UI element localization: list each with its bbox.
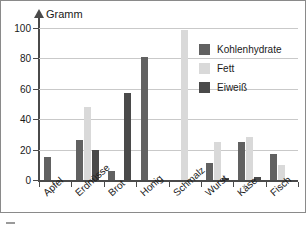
footer-mark [6, 222, 15, 224]
y-tick-label-80: 80 [0, 53, 31, 64]
y-tick-mark-0 [33, 180, 39, 181]
x-tick-mark [233, 182, 234, 187]
chart-page: Gramm 020406080100 ApfelErdnüsseBrotHoni… [0, 0, 307, 234]
x-tick-mark [169, 182, 170, 187]
x-tick-mark [39, 182, 40, 187]
legend-swatch-icon [199, 44, 210, 55]
y-tick-label-40: 40 [0, 114, 31, 125]
y-axis-arrow-icon [34, 9, 44, 18]
x-tick-mark [136, 182, 137, 187]
x-tick-mark [104, 182, 105, 187]
legend-item: Eiweiß [199, 79, 282, 95]
x-tick-mark [201, 182, 202, 187]
y-tick-label-100: 100 [0, 23, 31, 34]
y-tick-label-60: 60 [0, 83, 31, 94]
bar [181, 30, 188, 180]
x-tick-mark [71, 182, 72, 187]
x-tick-mark [266, 182, 267, 187]
bar [84, 107, 91, 180]
x-tick-mark [298, 182, 299, 187]
y-tick-label-0: 0 [0, 175, 31, 186]
legend-swatch-icon [199, 63, 210, 74]
legend-swatch-icon [199, 82, 210, 93]
bar [141, 57, 148, 180]
legend-label: Eiweiß [217, 82, 247, 93]
legend-item: Kohlenhydrate [199, 41, 282, 57]
bar [44, 157, 51, 180]
bar [108, 171, 115, 180]
y-tick-label-20: 20 [0, 144, 31, 155]
bar [270, 154, 277, 180]
bar [76, 140, 83, 180]
y-axis-title: Gramm [46, 8, 83, 20]
legend-label: Kohlenhydrate [217, 44, 282, 55]
bar [124, 93, 131, 180]
legend-item: Fett [199, 60, 282, 76]
legend-label: Fett [217, 63, 234, 74]
chart-legend: KohlenhydrateFettEiweiß [199, 41, 282, 98]
bar [238, 142, 245, 180]
